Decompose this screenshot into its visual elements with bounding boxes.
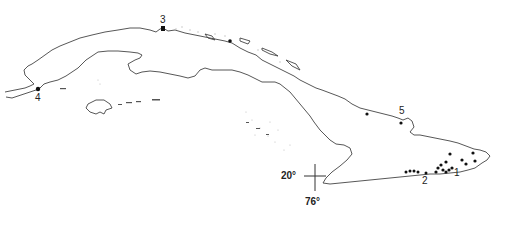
longitude-label: 76°	[305, 197, 320, 207]
cuba-map	[0, 0, 515, 228]
southern-cays	[60, 88, 269, 135]
latitude-label: 20°	[281, 171, 296, 181]
shallow-water-stipple	[97, 26, 290, 150]
locality-label-4: 4	[35, 93, 41, 103]
locality-label-3: 3	[160, 15, 166, 25]
reference-cross	[304, 164, 326, 191]
locality-label-5: 5	[399, 106, 405, 116]
locality-label-1: 1	[454, 168, 460, 178]
coastline	[5, 28, 490, 184]
locality-label-2: 2	[422, 176, 428, 186]
